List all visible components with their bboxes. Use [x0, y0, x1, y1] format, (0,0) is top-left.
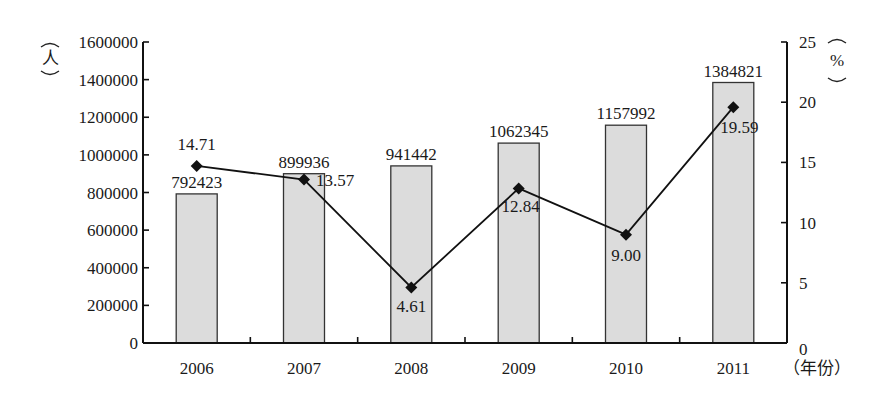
right-tick-label: 15 [799, 153, 816, 172]
left-tick-label: 1200000 [79, 108, 139, 127]
x-axis-unit: （年份） [783, 359, 851, 378]
left-tick-label: 600000 [87, 221, 138, 240]
right-tick-label: 0 [799, 340, 808, 359]
right-tick-label: 5 [799, 274, 808, 293]
left-axis-unit: 人 [41, 44, 59, 75]
line-label-2009: 12.84 [502, 197, 541, 216]
paren-bottom-icon [828, 78, 846, 82]
bar-label-2007: 899936 [279, 153, 330, 172]
bar-label-2009: 1062345 [489, 122, 549, 141]
x-tick-label: 2006 [180, 359, 214, 378]
bar-label-2011: 1384821 [704, 62, 764, 81]
left-tick-label: 1000000 [79, 146, 139, 165]
left-tick-label: 0 [130, 334, 139, 353]
line-value-labels: 14.7113.574.6112.849.0019.59 [178, 118, 759, 315]
line-label-2008: 4.61 [396, 297, 426, 316]
bar-2006 [176, 194, 217, 343]
left-tick-label: 400000 [87, 259, 138, 278]
bar-2007 [284, 174, 325, 343]
x-axis: 200620072008200920102011 [143, 337, 787, 378]
left-tick-label: 1400000 [79, 71, 139, 90]
diamond-marker-icon [191, 160, 203, 172]
bar-2009 [498, 143, 539, 343]
bar-series [176, 83, 754, 344]
right-tick-label: 20 [799, 93, 816, 112]
x-tick-label: 2011 [717, 359, 750, 378]
bar-value-labels: 792423899936941442106234511579921384821 [171, 62, 763, 192]
growth-rate-polyline [197, 107, 734, 287]
paren-top-icon [828, 40, 846, 44]
right-unit-text: % [830, 51, 844, 70]
bar-label-2008: 941442 [386, 145, 437, 164]
line-label-2007: 13.57 [316, 171, 355, 190]
left-unit-text: 人 [42, 49, 59, 68]
bar-label-2010: 1157992 [597, 104, 656, 123]
right-axis-unit: % [828, 40, 846, 82]
bar-label-2006: 792423 [171, 173, 222, 192]
paren-top-icon [41, 44, 59, 48]
x-tick-label: 2010 [609, 359, 643, 378]
line-label-2006: 14.71 [178, 135, 216, 154]
line-label-2010: 9.00 [611, 246, 641, 265]
left-tick-label: 800000 [87, 184, 138, 203]
right-tick-label: 25 [799, 33, 816, 52]
right-tick-label: 10 [799, 214, 816, 233]
x-tick-label: 2007 [287, 359, 322, 378]
right-y-axis: 0510152025 [781, 33, 816, 359]
left-y-axis: 0200000400000600000800000100000012000001… [79, 33, 150, 353]
bar-2008 [391, 166, 432, 343]
x-tick-label: 2009 [502, 359, 536, 378]
line-label-2011: 19.59 [720, 118, 758, 137]
left-tick-label: 200000 [87, 296, 138, 315]
growth-rate-line [191, 101, 740, 293]
x-tick-label: 2008 [394, 359, 428, 378]
bar-line-chart: 792423899936941442106234511579921384821 … [0, 0, 890, 413]
paren-bottom-icon [41, 71, 59, 75]
left-tick-label: 1600000 [79, 33, 139, 52]
